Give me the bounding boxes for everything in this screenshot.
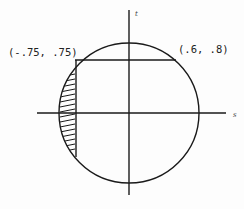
point-label-left: (-.75, .75)	[8, 46, 78, 58]
diagram-canvas: (-.75, .75) (.6, .8) t s	[0, 0, 244, 209]
t-axis-label: t	[135, 10, 138, 18]
point-label-right: (.6, .8)	[178, 43, 229, 55]
s-axis-label: s	[233, 111, 237, 119]
unit-circle-diagram: (-.75, .75) (.6, .8) t s	[0, 0, 244, 209]
